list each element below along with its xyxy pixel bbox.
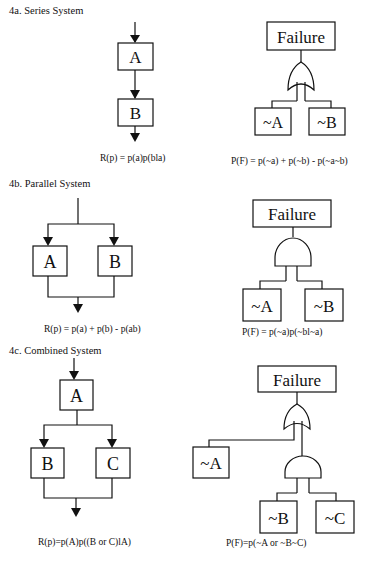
block-label: C bbox=[107, 454, 119, 474]
event-label: Failure bbox=[277, 28, 325, 47]
event-label: ~B bbox=[317, 114, 336, 131]
combined-fault-tree bbox=[193, 366, 354, 533]
event-label: ~A bbox=[263, 114, 284, 131]
event-label: ~A bbox=[251, 297, 273, 316]
combined-block-diagram bbox=[31, 358, 130, 517]
block-label: A bbox=[44, 252, 57, 272]
series-block-diagram bbox=[118, 22, 153, 142]
event-label: Failure bbox=[273, 371, 321, 390]
event-label: ~B bbox=[314, 297, 335, 316]
block-label: A bbox=[70, 386, 83, 406]
event-label: ~C bbox=[325, 509, 346, 528]
block-label: B bbox=[130, 104, 141, 123]
or-gate-icon bbox=[284, 404, 310, 429]
block-label: A bbox=[129, 48, 142, 67]
block-label: B bbox=[109, 252, 121, 272]
event-label: ~A bbox=[200, 454, 222, 473]
event-label: Failure bbox=[268, 205, 316, 224]
diagram-canvas: A B Failure ~A ~B A B Failure ~A ~B A B … bbox=[0, 0, 367, 566]
and-gate-icon bbox=[275, 238, 311, 266]
block-label: B bbox=[41, 454, 53, 474]
event-label: ~B bbox=[268, 509, 289, 528]
and-gate-icon bbox=[285, 456, 321, 478]
or-gate-icon bbox=[288, 62, 314, 90]
